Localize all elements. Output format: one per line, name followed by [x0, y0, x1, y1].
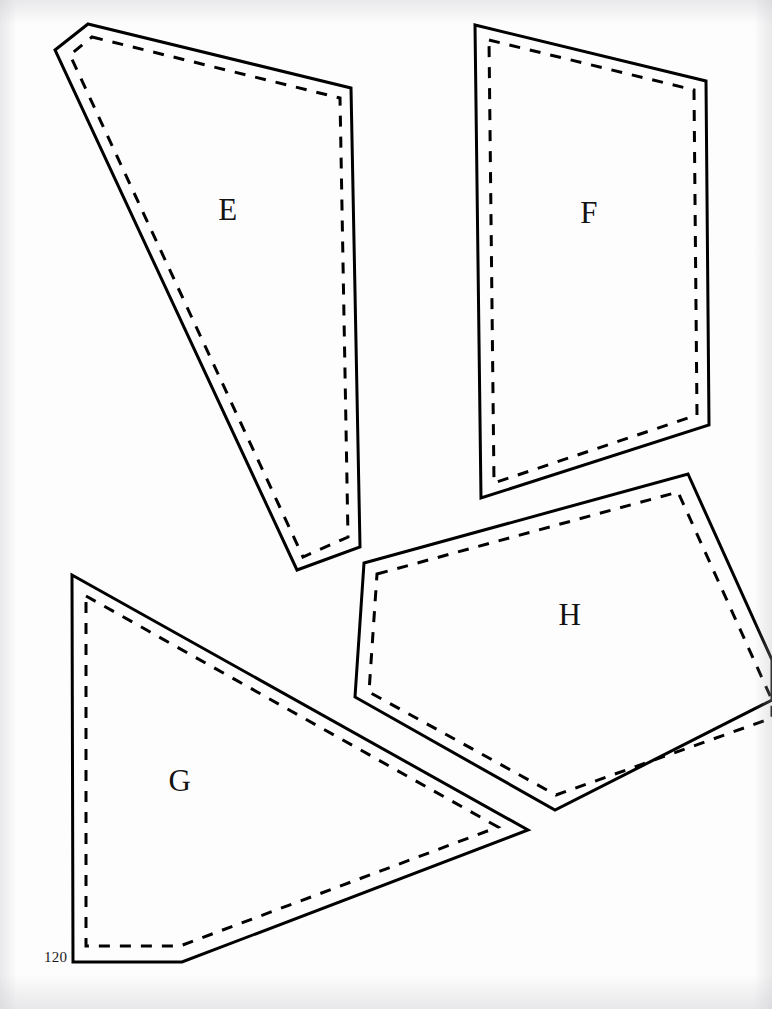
- pattern-pieces-canvas: [0, 0, 772, 1009]
- piece-label-f: F: [580, 197, 598, 228]
- piece-h-group[interactable]: [355, 474, 772, 810]
- piece-f-group[interactable]: [475, 25, 709, 498]
- piece-g-group[interactable]: [72, 575, 528, 962]
- piece-e-stitch-line: [70, 37, 348, 557]
- piece-label-e: E: [218, 194, 237, 225]
- piece-e-group[interactable]: [55, 24, 360, 570]
- piece-g-cut-line: [72, 575, 528, 962]
- piece-label-h: H: [559, 599, 582, 630]
- piece-e-cut-line: [55, 24, 360, 570]
- page-number: 120: [44, 950, 67, 965]
- pattern-sheet-page: E F G H 120: [0, 0, 772, 1009]
- piece-f-cut-line: [475, 25, 709, 498]
- piece-g-stitch-line: [86, 596, 498, 946]
- piece-f-stitch-line: [489, 40, 697, 483]
- piece-label-g: G: [169, 765, 192, 796]
- piece-h-stitch-line: [369, 492, 772, 795]
